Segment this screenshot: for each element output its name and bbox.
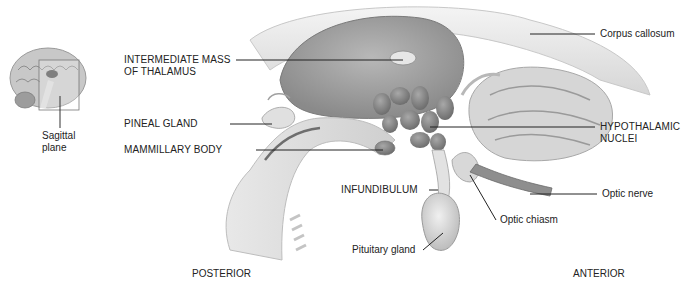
pineal-gland-shape [262, 107, 295, 128]
inset-label-line2: plane [42, 142, 75, 154]
label-hypothalamic-nuclei: HYPOTHALAMIC NUCLEI [600, 121, 680, 145]
label-hypothalamic-nuclei-line2: NUCLEI [600, 133, 680, 145]
label-infundibulum: INFUNDIBULUM [341, 184, 418, 196]
label-pituitary-gland: Pituitary gland [352, 244, 415, 256]
inset-label-line1: Sagittal [42, 130, 75, 142]
label-optic-chiasm: Optic chiasm [500, 214, 558, 226]
label-intermediate-mass: INTERMEDIATE MASS OF THALAMUS [124, 54, 231, 78]
label-anterior: ANTERIOR [573, 268, 625, 280]
inset-label: Sagittal plane [42, 130, 75, 154]
label-intermediate-mass-line1: INTERMEDIATE MASS [124, 54, 231, 66]
mammillary-body-shape [375, 141, 395, 155]
inset-brain-icon [10, 48, 86, 128]
infundibulum-shape [432, 150, 450, 200]
label-intermediate-mass-line2: OF THALAMUS [124, 66, 231, 78]
pituitary-gland-shape [422, 193, 460, 250]
intermediate-mass-shape [390, 51, 416, 65]
label-mammillary-body: MAMMILLARY BODY [124, 144, 222, 156]
label-optic-nerve: Optic nerve [602, 188, 653, 200]
frontal-folds-shape [462, 67, 613, 161]
label-posterior: POSTERIOR [192, 268, 251, 280]
anatomy-illustration [0, 0, 688, 290]
label-hypothalamic-nuclei-line1: HYPOTHALAMIC [600, 121, 680, 133]
label-corpus-callosum: Corpus callosum [600, 28, 674, 40]
optic-nerve-shape [470, 164, 552, 196]
label-pineal-gland: PINEAL GLAND [124, 118, 198, 130]
